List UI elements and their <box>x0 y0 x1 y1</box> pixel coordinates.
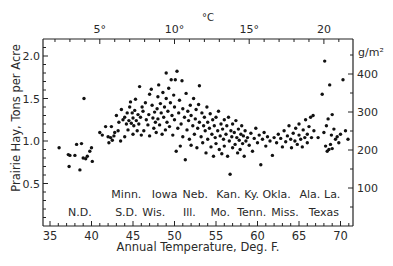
data-point <box>127 119 130 122</box>
data-point <box>310 136 313 139</box>
data-point <box>261 138 264 141</box>
data-point <box>327 148 330 151</box>
data-point <box>177 111 180 114</box>
data-point <box>286 134 289 137</box>
data-point <box>84 157 87 160</box>
x-tick-label: 45 <box>126 229 141 243</box>
data-point <box>187 119 190 122</box>
data-point <box>316 136 319 139</box>
data-point <box>130 122 133 125</box>
data-point <box>82 97 85 100</box>
data-point <box>151 116 154 119</box>
data-point <box>165 97 168 100</box>
data-point <box>214 116 217 119</box>
data-point <box>184 158 187 161</box>
gm2-tick-label: 200 <box>357 144 378 157</box>
data-point <box>277 133 280 136</box>
data-point <box>206 138 209 141</box>
gm2-axis-label: g/m² <box>358 46 384 59</box>
data-point <box>311 114 314 117</box>
data-point <box>90 146 93 149</box>
data-point <box>199 135 202 138</box>
data-point <box>198 121 201 124</box>
data-point <box>67 165 70 168</box>
data-point <box>219 134 222 137</box>
data-point <box>235 136 238 139</box>
data-point <box>253 137 256 140</box>
data-point <box>212 155 215 158</box>
data-point <box>75 143 78 146</box>
data-point <box>166 110 169 113</box>
data-point <box>137 122 140 125</box>
state-label: Minn. <box>111 188 141 201</box>
data-point <box>224 133 227 136</box>
data-point <box>290 146 293 149</box>
data-point <box>243 129 246 132</box>
data-point <box>240 124 243 127</box>
x-tick-label: 60 <box>250 229 265 243</box>
data-point <box>264 144 267 147</box>
data-point <box>152 127 155 130</box>
data-point <box>321 93 324 96</box>
data-point <box>282 129 285 132</box>
data-point <box>222 138 225 141</box>
data-point <box>159 102 162 105</box>
celsius-tick-label: 15° <box>239 23 259 36</box>
data-point <box>204 151 207 154</box>
data-point <box>91 160 94 163</box>
data-point <box>167 87 170 90</box>
data-point <box>251 150 254 153</box>
data-point <box>306 133 309 136</box>
data-point <box>242 134 245 137</box>
data-point <box>214 142 217 145</box>
state-label: Texas <box>308 206 340 219</box>
data-point <box>173 105 176 108</box>
state-label: S.D. <box>115 206 137 219</box>
state-label: La. <box>324 188 340 201</box>
data-point <box>293 139 296 142</box>
data-point <box>179 122 182 125</box>
data-point <box>287 124 290 127</box>
data-point <box>123 135 126 138</box>
data-point <box>179 144 182 147</box>
data-point <box>73 154 76 157</box>
data-point <box>297 122 300 125</box>
data-point <box>189 104 192 107</box>
data-point <box>229 129 232 132</box>
state-label: Tenn. <box>236 206 266 219</box>
data-point <box>175 70 178 73</box>
data-point <box>246 136 249 139</box>
data-point <box>104 125 107 128</box>
x-tick-label: 40 <box>84 229 99 243</box>
data-point <box>323 59 326 62</box>
gm2-tick-label: 100 <box>357 182 378 195</box>
data-point <box>331 113 334 116</box>
data-points <box>57 59 349 176</box>
data-point <box>248 144 251 147</box>
data-point <box>193 133 196 136</box>
data-point <box>197 103 200 106</box>
y-tick-label: 1.5 <box>23 93 41 106</box>
data-point <box>183 116 186 119</box>
data-point <box>231 146 234 149</box>
data-point <box>205 105 208 108</box>
data-point <box>157 83 160 86</box>
data-point <box>174 78 177 81</box>
data-point <box>217 110 220 113</box>
data-point <box>140 105 143 108</box>
data-point <box>164 128 167 131</box>
celsius-tick-label: 20 <box>317 23 331 36</box>
labels: Annual Temperature, Deg. F. Prairie Hay,… <box>9 12 384 254</box>
data-point <box>231 122 234 125</box>
y-tick-label: 0.5 <box>23 178 41 191</box>
data-point <box>259 163 262 166</box>
data-point <box>158 123 161 126</box>
data-point <box>173 118 176 121</box>
x-tick-label: 55 <box>209 229 224 243</box>
data-point <box>339 133 342 136</box>
celsius-axis-label: °C <box>202 12 214 23</box>
celsius-tick-label: 10° <box>165 23 185 36</box>
data-point <box>233 143 236 146</box>
data-point <box>140 133 143 136</box>
data-point <box>120 108 123 111</box>
